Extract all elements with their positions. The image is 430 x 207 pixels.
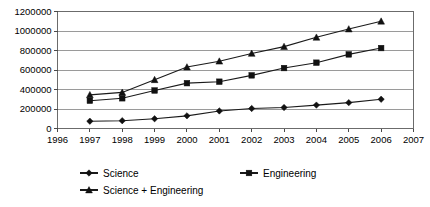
x-axis-tick-label: 2006 (371, 134, 392, 145)
legend-label: Engineering (263, 168, 316, 179)
series-science-engineering (86, 18, 384, 98)
legend-item-engineering: Engineering (240, 168, 316, 179)
y-axis-tick-label: 200000 (20, 103, 52, 114)
y-axis-tick-label: 600000 (20, 64, 52, 75)
line-chart: 020000040000060000080000010000001200000 … (0, 0, 430, 207)
x-axis-tick-label: 2004 (306, 134, 327, 145)
x-axis-tick-label: 1997 (79, 134, 100, 145)
data-point-marker (119, 95, 125, 101)
series-line (90, 99, 381, 121)
x-axis-tick-label: 2003 (273, 134, 294, 145)
legend-label: Science + Engineering (103, 185, 203, 196)
data-point-marker (281, 65, 287, 71)
legend-marker-square (246, 170, 252, 176)
y-axis-tick-label: 800000 (20, 45, 52, 56)
data-point-marker (119, 118, 125, 124)
data-point-marker (151, 76, 158, 82)
legend-item-science: Science (80, 168, 139, 179)
data-point-marker (249, 73, 255, 79)
series-line (90, 21, 381, 95)
x-axis-tick-label: 1996 (47, 134, 68, 145)
series-science (87, 96, 385, 124)
data-point-marker (151, 116, 157, 122)
x-axis-labels: 1996199719981999200020012002200320042005… (47, 134, 424, 145)
series-line (90, 48, 381, 101)
data-point-marker (87, 118, 93, 124)
chart-canvas: 020000040000060000080000010000001200000 … (0, 0, 430, 207)
x-axis-tick-label: 1998 (112, 134, 133, 145)
data-point-marker (378, 96, 384, 102)
data-point-marker (87, 98, 93, 104)
x-axis-tick-label: 1999 (144, 134, 165, 145)
y-axis-tick-label: 0 (46, 123, 51, 134)
legend-label: Science (103, 168, 139, 179)
legend-marker-diamond (86, 170, 92, 176)
data-point-marker (184, 113, 190, 119)
y-axis-labels: 020000040000060000080000010000001200000 (15, 6, 52, 134)
data-point-marker (313, 102, 319, 108)
data-point-marker (152, 88, 158, 94)
x-axis-tick-label: 2007 (403, 134, 424, 145)
data-point-marker (184, 80, 190, 86)
data-point-marker (314, 60, 320, 66)
chart-legend: ScienceEngineeringScience + Engineering (80, 168, 316, 196)
x-axis-tick-label: 2002 (241, 134, 262, 145)
legend-item-science-engineering: Science + Engineering (80, 185, 203, 196)
x-axis-tick-label: 2000 (176, 134, 197, 145)
data-series-group (86, 18, 384, 125)
y-tickmark-group (54, 12, 58, 129)
y-axis-tick-label: 1000000 (15, 25, 52, 36)
data-point-marker (346, 99, 352, 105)
x-tickmark-group (58, 129, 414, 133)
data-point-marker (248, 105, 254, 111)
series-engineering (87, 45, 384, 103)
gridline-group (58, 31, 414, 109)
data-point-marker (217, 79, 223, 85)
y-axis-tick-label: 1200000 (15, 6, 52, 17)
data-point-marker (346, 52, 352, 58)
x-axis-tick-label: 2005 (338, 134, 359, 145)
x-axis-tick-label: 2001 (209, 134, 230, 145)
y-axis-tick-label: 400000 (20, 84, 52, 95)
data-point-marker (378, 18, 385, 24)
data-point-marker (378, 45, 384, 51)
data-point-marker (281, 104, 287, 110)
